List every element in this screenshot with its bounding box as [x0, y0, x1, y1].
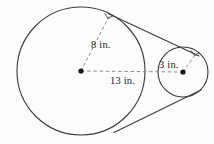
circles-tangents-svg	[0, 0, 214, 144]
small-radius-dashed-line	[183, 54, 196, 72]
center-point-dot-small	[180, 69, 185, 74]
lower-tangent-line	[114, 90, 201, 133]
center-distance-label: 13 in.	[110, 76, 135, 87]
center-point-dot-large	[78, 68, 83, 73]
upper-tangent-line	[108, 14, 199, 57]
center-distance-dashed-line	[81, 71, 183, 72]
radius-label-small: 3 in.	[159, 60, 179, 71]
radius-label-large: 8 in.	[91, 40, 111, 51]
geometry-figure: 8 in. 3 in. 13 in.	[0, 0, 214, 144]
